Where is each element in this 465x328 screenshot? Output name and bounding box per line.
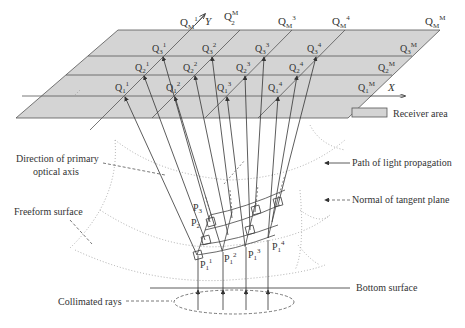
primary-axis-label-1: Direction of primary — [16, 153, 99, 164]
normal-legend: Normal of tangent plane — [352, 194, 450, 205]
bottom-surface-label: Bottom surface — [356, 282, 418, 293]
y-axis-label: Y — [205, 15, 213, 27]
freeform-surface-label: Freeform surface — [14, 206, 83, 217]
light-path-legend: Path of light propagation — [352, 157, 452, 168]
label-qmm: QMM — [425, 14, 446, 30]
svg-text:P3: P3 — [193, 202, 203, 215]
primary-axis-label-2: optical axis — [33, 166, 79, 177]
svg-text:P12: P12 — [224, 251, 237, 266]
collimated-rays-label: Collimated rays — [58, 296, 122, 307]
svg-text:P13: P13 — [248, 247, 261, 262]
svg-text:P14: P14 — [272, 239, 285, 254]
label-qm4: QM4 — [332, 14, 350, 30]
label-qm3: QM3 — [278, 14, 296, 30]
label-qm1: QM1 — [180, 15, 198, 31]
receiver-area-label: Receiver area — [393, 108, 448, 119]
collimated-beam-ellipse — [174, 290, 294, 314]
freeform-surface-outline — [70, 90, 345, 281]
svg-text:P2: P2 — [191, 217, 201, 230]
receiver-area-swatch — [352, 108, 387, 117]
label-qm2: QM2 — [224, 9, 239, 27]
svg-text:P11: P11 — [200, 257, 213, 272]
x-axis-label: X — [387, 81, 396, 93]
surface-point-labels: P11 P12 P13 P14 P2 P3 — [191, 202, 285, 272]
